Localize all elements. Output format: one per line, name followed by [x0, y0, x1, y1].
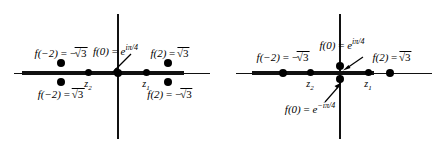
label-f-2-lower-left: f(2) = −√3: [147, 88, 192, 101]
label-f-minus2-right: f(−2) = −√3: [257, 51, 310, 64]
point-f-2-lower-left: [164, 78, 172, 86]
point-f-minus2-right: [279, 69, 287, 77]
point-f-2-upper-left: [164, 59, 172, 67]
point-z2-right: [307, 69, 314, 76]
label-z2-right: z2: [306, 78, 313, 92]
panel-left: f(−2) = −√3 f(−2) = √3 f(0) = eiπ/4 f(2)…: [0, 0, 222, 153]
arrow-to-origin-upper-right: [340, 55, 366, 71]
label-z2-left: z2: [84, 78, 91, 92]
label-f-2-right: f(2) = √3: [372, 51, 411, 64]
label-f-minus2-lower-left: f(−2) = √3: [38, 88, 85, 101]
point-f-minus2-lower-left: [57, 78, 65, 86]
point-z1-left: [143, 69, 150, 76]
point-z2-left: [85, 69, 92, 76]
label-f-minus2-upper-left: f(−2) = −√3: [35, 47, 88, 60]
horizontal-axis-bold-left: [22, 71, 184, 75]
vertical-axis-left: [117, 14, 120, 139]
label-f-2-upper-left: f(2) = √3: [150, 47, 189, 60]
point-f-2-right: [386, 69, 394, 77]
label-f-0-upper-right: f(0) = eiπ/4: [320, 40, 365, 52]
label-f-0-lower-right: f(0) = e−iπ/4: [285, 104, 335, 116]
label-z1-left: z1: [142, 78, 149, 92]
figure-canvas: f(−2) = −√3 f(−2) = √3 f(0) = eiπ/4 f(2)…: [0, 0, 444, 153]
panel-right: f(−2) = −√3 f(0) = eiπ/4 f(0) = e−iπ/4 f…: [222, 0, 444, 153]
label-z1-right: z1: [364, 78, 371, 92]
label-f-0-left: f(0) = eiπ/4: [93, 46, 138, 58]
point-f-minus2-upper-left: [57, 59, 65, 67]
